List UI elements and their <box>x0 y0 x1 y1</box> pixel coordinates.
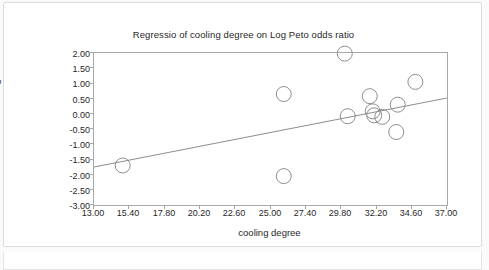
regression-line <box>94 98 447 167</box>
x-tick-label: 37.00 <box>416 208 476 218</box>
data-point <box>362 89 377 104</box>
screenshot-root: Regressio of cooling degree on Log Peto … <box>0 0 489 270</box>
y-tick-label: 0.50 <box>46 95 90 105</box>
data-point <box>390 97 405 112</box>
data-point <box>389 125 404 140</box>
chart-title: Regressio of cooling degree on Log Peto … <box>4 29 483 40</box>
data-point <box>115 158 130 173</box>
plot-area <box>93 52 448 206</box>
figure-caption-strip <box>3 252 482 270</box>
y-tick-label: -1.50 <box>46 155 90 165</box>
figure-card: Regressio of cooling degree on Log Peto … <box>3 2 482 247</box>
scatter-chart: Regressio of cooling degree on Log Peto … <box>4 3 483 248</box>
data-points <box>115 46 423 184</box>
y-tick-label: -0.50 <box>46 125 90 135</box>
data-layer <box>94 53 447 205</box>
y-axis-label: Log Peto odds ratio <box>0 13 1 95</box>
data-point <box>276 87 291 102</box>
y-tick-label: -1.00 <box>46 140 90 150</box>
y-tick-label: 2.00 <box>46 49 90 59</box>
x-axis-label: cooling degree <box>93 227 446 238</box>
y-tick-label: -2.00 <box>46 171 90 181</box>
data-point <box>337 46 352 61</box>
plot-inner <box>94 53 447 205</box>
data-point <box>276 169 291 184</box>
data-point <box>375 109 390 124</box>
y-tick-label: 1.00 <box>46 79 90 89</box>
y-tick-label: 1.50 <box>46 64 90 74</box>
y-tick-label: -2.50 <box>46 186 90 196</box>
y-tick-label: 0.00 <box>46 110 90 120</box>
data-point <box>408 74 423 89</box>
